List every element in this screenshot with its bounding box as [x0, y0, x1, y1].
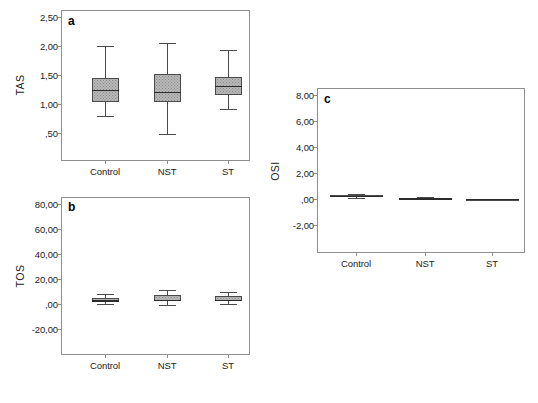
panel-b-xtick-label: NST: [137, 360, 197, 371]
panel-b-xtick-label: Control: [75, 360, 135, 371]
median-line: [92, 300, 119, 301]
median-line: [215, 300, 242, 301]
panel-b-ytick-mark: [58, 204, 61, 205]
median-line: [215, 86, 242, 87]
panel-c-ytick-mark: [314, 95, 317, 96]
whisker-cap-upper: [97, 294, 114, 295]
panel-c-ytick-label: ,00: [276, 194, 314, 205]
panel-a-ytick-label: 2,00: [22, 41, 58, 52]
panel-b-ytick-label: 20,00: [10, 274, 58, 285]
panel-b-letter: b: [68, 200, 75, 214]
panel-c-xtick-mark: [425, 253, 426, 256]
panel-a-xtick-label: Control: [75, 166, 135, 177]
panel-b-plot-frame: [61, 197, 250, 355]
panel-c-ytick-label: 6,00: [276, 116, 314, 127]
whisker-cap-lower: [159, 134, 176, 135]
panel-a-ytick-mark: [58, 133, 61, 134]
whisker-cap-upper: [220, 50, 237, 51]
whisker-cap-upper: [97, 46, 114, 47]
panel-a-ytick-mark: [58, 104, 61, 105]
panel-a-ytick-label: 1,00: [22, 99, 58, 110]
panel-a-xtick-mark: [167, 161, 168, 164]
whisker-cap-upper: [159, 43, 176, 44]
panel-a-xtick-label: ST: [198, 166, 258, 177]
panel-a-ytick-label: ,50: [22, 128, 58, 139]
panel-b-ytick-label: 60,00: [10, 224, 58, 235]
median-line: [92, 90, 119, 91]
panel-b-xtick-mark: [105, 355, 106, 358]
panel-c-xtick-mark: [356, 253, 357, 256]
median-line: [399, 198, 452, 199]
panel-c-xtick-label: Control: [326, 258, 386, 269]
panel-c-xtick-label: NST: [395, 258, 455, 269]
whisker-cap-upper: [220, 292, 237, 293]
panel-b-ytick-mark: [58, 229, 61, 230]
whisker-cap-lower: [97, 304, 114, 305]
panel-b-ytick-label: -20,00: [10, 324, 58, 335]
panel-a-xtick-mark: [105, 161, 106, 164]
whisker-cap-lower: [159, 305, 176, 306]
panel-a-xtick-mark: [228, 161, 229, 164]
panel-a-ytick-mark: [58, 17, 61, 18]
panel-b-ytick-label: ,00: [10, 299, 58, 310]
panel-b-ytick-mark: [58, 304, 61, 305]
panel-b-ytick-label: 40,00: [10, 249, 58, 260]
panel-a-ytick-mark: [58, 75, 61, 76]
panel-c-ytick-label: 2,00: [276, 168, 314, 179]
whisker-cap-lower: [97, 116, 114, 117]
panel-a-letter: a: [68, 14, 75, 28]
panel-c-xtick-mark: [492, 253, 493, 256]
panel-c-ytick-mark: [314, 225, 317, 226]
whisker-cap-lower: [220, 304, 237, 305]
whisker-cap-lower: [220, 109, 237, 110]
panel-c-xtick-label: ST: [462, 258, 522, 269]
panel-b-ytick-mark: [58, 254, 61, 255]
panel-a-ytick-label: 2,50: [22, 12, 58, 23]
box: [154, 74, 181, 102]
whisker-cap-lower: [348, 198, 365, 199]
panel-c-ytick-mark: [314, 173, 317, 174]
panel-c-ytick-label: 4,00: [276, 142, 314, 153]
panel-b-ytick-label: 80,00: [10, 199, 58, 210]
panel-a-ytick-mark: [58, 46, 61, 47]
median-line: [154, 92, 181, 93]
panel-c-ytick-label: -2,00: [270, 220, 314, 231]
median-line: [466, 199, 519, 200]
panel-b-xtick-mark: [167, 355, 168, 358]
panel-b-xtick-mark: [228, 355, 229, 358]
panel-c-ytick-mark: [314, 147, 317, 148]
panel-c-plot-frame: [317, 88, 525, 253]
median-line: [154, 300, 181, 301]
panel-b-ytick-mark: [58, 329, 61, 330]
panel-b-ytick-mark: [58, 279, 61, 280]
whisker-cap-upper: [159, 290, 176, 291]
panel-c-ytick-mark: [314, 199, 317, 200]
panel-a-xtick-label: NST: [137, 166, 197, 177]
panel-b-xtick-label: ST: [198, 360, 258, 371]
median-line: [330, 196, 383, 197]
panel-a-ytick-label: 1,50: [22, 70, 58, 81]
panel-c-letter: c: [324, 92, 331, 106]
panel-c-ytick-mark: [314, 121, 317, 122]
panel-c-ytick-label: 8,00: [276, 90, 314, 101]
